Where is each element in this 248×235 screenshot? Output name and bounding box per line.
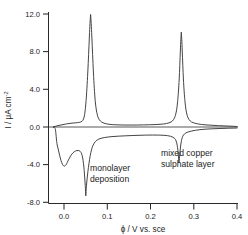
x-axis-title: ϕ / V vs. sce [121, 225, 166, 234]
x-tick-label-2: 0.2 [145, 212, 156, 221]
y-axis-title: I / μA cm-2 [3, 91, 13, 128]
x-tick-marks [64, 204, 237, 210]
annotation-monolayer-line1: monolayer [90, 163, 130, 173]
y-tick-label-0: 12.0 [25, 10, 40, 19]
annotation-monolayer-deposition: monolayer deposition [90, 163, 130, 184]
annotation-monolayer-line2: deposition [90, 174, 129, 184]
x-tick-label-1: 0.1 [102, 212, 113, 221]
x-tick-label-4: 0.4 [232, 212, 243, 221]
y-tick-label-4: -4.0 [27, 160, 40, 169]
anodic-sweep-trace [53, 15, 237, 127]
y-axis-title-exponent: -2 [3, 91, 9, 96]
y-axis-title-main: I / [4, 119, 13, 128]
x-tick-label-3: 0.3 [189, 212, 200, 221]
plot-canvas: 12.0 8.0 4.0 0.0 -4.0 -8.0 0.0 0.1 0.2 0… [0, 0, 248, 235]
y-tick-label-3: 0.0 [29, 123, 40, 132]
y-tick-marks [43, 14, 49, 202]
voltammogram-figure: 12.0 8.0 4.0 0.0 -4.0 -8.0 0.0 0.1 0.2 0… [0, 0, 248, 235]
svg-text:I / μA cm-2: I / μA cm-2 [3, 91, 13, 128]
x-tick-label-0: 0.0 [59, 212, 70, 221]
y-axis-title-unit: μA cm [4, 96, 13, 119]
annotation-mixed-line2: sulphate layer [161, 159, 215, 169]
y-tick-label-1: 8.0 [29, 47, 40, 56]
annotation-mixed-line1: mixed copper [161, 148, 213, 158]
annotation-mixed-copper-sulphate-layer: mixed copper sulphate layer [161, 148, 215, 169]
y-tick-label-2: 4.0 [29, 85, 40, 94]
y-tick-label-5: -8.0 [27, 198, 40, 207]
